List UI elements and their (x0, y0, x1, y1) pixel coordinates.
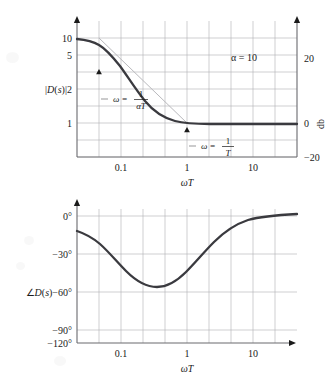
phase-xlabel: ωT (181, 363, 195, 374)
svg-text:ω =: ω = (113, 94, 128, 104)
magnitude-ytick-right-20: 20 (304, 53, 314, 64)
svg-text:1: 1 (139, 89, 144, 99)
marker-omega-alpha-t (96, 69, 102, 74)
magnitude-ylabel-right: db (315, 119, 326, 129)
magnitude-xtick-10: 10 (248, 162, 258, 173)
phase-xtick-1: 1 (185, 348, 190, 359)
scan-artifact (54, 356, 66, 366)
magnitude-ytick-right-neg20: −20 (304, 152, 320, 163)
alpha-annotation: α = 10 (231, 52, 257, 63)
phase-ytick-0: 0° (63, 211, 72, 222)
magnitude-plot: 10 5 2 1 20 0 −20 |D(s)| db 0.1 1 10 ωT … (45, 16, 326, 188)
magnitude-ylabel: |D(s)| (45, 84, 67, 96)
omega-alpha-t-annotation: ω = 1 αT (101, 89, 148, 111)
magnitude-ytick-2: 2 (67, 84, 72, 95)
scan-artifact (6, 52, 19, 63)
magnitude-ytick-right-0: 0 (304, 118, 309, 129)
svg-text:ω =: ω = (201, 141, 216, 151)
phase-left-axis-arrow (74, 199, 80, 206)
omega-t-annotation: ω = 1 T (189, 136, 234, 158)
phase-ytick-neg60: −60° (52, 287, 72, 298)
phase-grid-vertical (99, 209, 275, 343)
magnitude-xlabel: ωT (181, 177, 195, 188)
phase-ytick-neg90: −90° (52, 325, 72, 336)
svg-text:1: 1 (226, 136, 231, 146)
bode-plot-figure: 10 5 2 1 20 0 −20 |D(s)| db 0.1 1 10 ωT … (0, 0, 335, 378)
magnitude-left-axis-arrow (74, 16, 80, 23)
phase-x-axis-arrow (289, 340, 296, 346)
phase-xtick-0-1: 0.1 (115, 348, 128, 359)
magnitude-ytick-10: 10 (62, 33, 72, 44)
magnitude-xtick-1: 1 (185, 162, 190, 173)
magnitude-right-axis-arrow (294, 16, 300, 23)
scan-artifact (24, 236, 34, 245)
phase-ylabel: ∠D(s) (26, 287, 53, 299)
magnitude-ytick-5: 5 (67, 50, 72, 61)
phase-ytick-neg120: −120° (47, 338, 72, 349)
magnitude-ytick-1: 1 (67, 118, 72, 129)
bode-plot-svg: 10 5 2 1 20 0 −20 |D(s)| db 0.1 1 10 ωT … (0, 0, 335, 378)
phase-xtick-10: 10 (248, 348, 258, 359)
scan-artifact (16, 262, 25, 270)
svg-text:αT: αT (136, 101, 147, 111)
phase-plot: 0° −30° −60° −90° −120° ∠D(s) 0.1 1 10 ω… (26, 199, 297, 374)
magnitude-xtick-0-1: 0.1 (115, 162, 128, 173)
svg-text:T: T (225, 148, 231, 158)
phase-ytick-neg30: −30° (52, 249, 72, 260)
marker-omega-t (184, 127, 190, 132)
